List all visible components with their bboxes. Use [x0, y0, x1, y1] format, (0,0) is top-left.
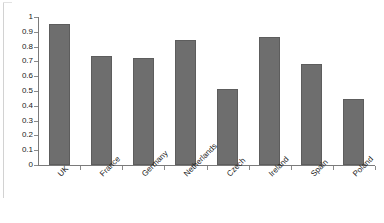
- y-tick-label-text: 0.9: [22, 27, 33, 36]
- x-tick-mark: [249, 166, 250, 170]
- x-tick-mark: [164, 166, 165, 170]
- x-axis-label-uk: UK: [56, 164, 70, 178]
- y-tick-label-text: 0.6: [22, 71, 33, 80]
- y-tick-label-text: 1: [29, 12, 33, 21]
- y-tick-label-text: 0: [29, 160, 33, 169]
- x-tick-mark: [80, 166, 81, 170]
- bar-chart: 00.10.20.30.40.50.60.70.80.91 UKFranceGe…: [0, 0, 384, 223]
- plot-area: [38, 17, 375, 165]
- bar-uk: [49, 24, 70, 165]
- bar-poland: [343, 99, 364, 165]
- frame-top-border: [3, 2, 12, 3]
- y-tick-label-text: 0.8: [22, 42, 33, 51]
- y-tick-label-text: 0.7: [22, 56, 33, 65]
- bar-ireland: [259, 37, 280, 165]
- bar-czech: [217, 89, 238, 165]
- bar-germany: [133, 58, 154, 165]
- y-tick-label-text: 0.1: [22, 145, 33, 154]
- x-tick-mark: [375, 166, 376, 170]
- y-tick-label-text: 0.4: [22, 101, 33, 110]
- y-tick-label-text: 0.5: [22, 86, 33, 95]
- x-tick-mark: [207, 166, 208, 170]
- x-tick-mark: [291, 166, 292, 170]
- y-tick-mark: [34, 165, 38, 166]
- bar-netherlands: [175, 40, 196, 165]
- bar-france: [91, 56, 112, 165]
- x-tick-mark: [333, 166, 334, 170]
- bar-spain: [301, 64, 322, 165]
- y-tick-label-text: 0.2: [22, 130, 33, 139]
- y-tick-label-text: 0.3: [22, 116, 33, 125]
- frame-left-border: [3, 2, 4, 198]
- x-tick-mark: [122, 166, 123, 170]
